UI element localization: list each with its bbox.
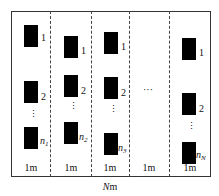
element-block-2-2 <box>64 75 78 97</box>
element-block-3-n <box>104 133 118 155</box>
column-width-label: 1m <box>170 162 210 173</box>
element-label: 1 <box>121 42 126 52</box>
element-block-1-1 <box>24 25 38 47</box>
element-block-3-1 <box>104 32 118 54</box>
column-divider <box>129 11 130 177</box>
element-label: 1 <box>81 46 86 56</box>
element-label: 2 <box>41 92 46 102</box>
column-width-label: 1m <box>90 162 130 173</box>
element-block-5-1 <box>182 38 196 60</box>
element-block-1-2 <box>24 81 38 103</box>
element-block-5-2 <box>182 93 196 115</box>
vertical-ellipsis: ⋮ <box>29 113 33 116</box>
column-width-label: 1m <box>51 162 91 173</box>
column-divider <box>91 11 92 177</box>
vertical-ellipsis: ⋮ <box>109 108 113 111</box>
element-label: 2 <box>121 88 126 98</box>
column-divider <box>169 11 170 177</box>
total-width-label: Nm <box>90 181 130 192</box>
column-width-label: 1m <box>129 162 169 173</box>
element-block-2-n <box>64 122 78 144</box>
column-divider <box>50 11 51 177</box>
element-label: 2 <box>199 104 204 114</box>
element-label: 2 <box>81 86 86 96</box>
column-width-label: 1m <box>11 162 51 173</box>
vertical-ellipsis: ⋮ <box>69 105 73 108</box>
element-label: n3 <box>118 143 127 156</box>
vertical-ellipsis: ⋮ <box>187 125 191 128</box>
element-label: n1 <box>40 136 49 149</box>
element-label: n2 <box>79 132 88 145</box>
element-label: 1 <box>199 48 204 58</box>
element-block-1-n <box>24 127 38 149</box>
horizontal-ellipsis: ··· <box>143 84 153 95</box>
element-label: 1 <box>41 33 46 43</box>
element-block-2-1 <box>64 36 78 58</box>
element-block-5-n <box>182 142 196 164</box>
element-block-3-2 <box>104 77 118 99</box>
